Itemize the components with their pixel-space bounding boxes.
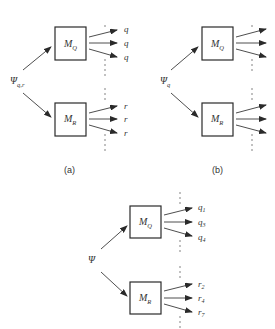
output-label: q	[124, 38, 129, 48]
panel-b: Ψq MQ MR (b)	[160, 25, 266, 175]
output-label: r	[124, 101, 128, 111]
panel-c: Ψ MQ q1 q3 q4 MR r2 r4 r7	[88, 192, 206, 327]
output-label: q	[124, 24, 129, 34]
output-arrow	[236, 105, 266, 113]
output-arrow	[236, 29, 266, 37]
dotted-column	[179, 192, 180, 327]
output-label: r	[124, 128, 128, 138]
source-label-b: Ψq	[160, 75, 171, 88]
panel-caption-a: (a)	[64, 165, 75, 175]
source-label-c: Ψ	[88, 254, 96, 265]
panel-a: Ψq,r MQ q q q MR r r r (a)	[10, 24, 129, 175]
output-arrow	[164, 208, 192, 215]
output-label: q	[124, 52, 129, 62]
output-arrow	[89, 125, 117, 133]
panel-caption-b: (b)	[212, 165, 223, 175]
output-label: q1	[198, 202, 206, 213]
source-to-mr-arrow-b	[171, 93, 198, 117]
output-arrow	[236, 125, 266, 133]
output-arrow	[164, 228, 192, 236]
output-arrow	[89, 49, 117, 57]
source-to-mq-arrow-b	[171, 47, 198, 70]
source-label-a: Ψq,r	[10, 75, 25, 88]
output-label: q3	[198, 217, 206, 228]
output-arrow	[164, 284, 192, 291]
source-to-mq-arrow-a	[23, 47, 51, 70]
source-to-mr-arrow-c	[101, 272, 127, 296]
output-label: q4	[198, 232, 206, 243]
output-arrow	[89, 106, 117, 113]
dotted-column	[104, 25, 105, 150]
output-label: r7	[198, 307, 206, 318]
output-label: r2	[198, 279, 205, 290]
output-arrow	[236, 49, 266, 57]
output-arrow	[164, 304, 192, 312]
source-to-mr-arrow-a	[23, 93, 51, 117]
output-label: r4	[198, 293, 205, 304]
diagram-canvas: Ψq,r MQ q q q MR r r r (a) Ψq	[0, 0, 275, 329]
output-label: r	[124, 114, 128, 124]
source-to-mq-arrow-c	[101, 226, 127, 249]
dotted-column	[251, 25, 252, 150]
output-arrow	[89, 30, 117, 37]
